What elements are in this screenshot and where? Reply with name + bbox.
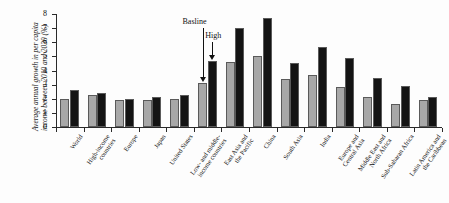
- x-axis-tick: [56, 128, 57, 132]
- plot-area: 012345678 BaslineHigh: [56, 14, 442, 128]
- y-axis-tick: 6: [52, 42, 56, 43]
- bar-group: [170, 14, 189, 127]
- bar-high: [318, 47, 327, 128]
- bar-high: [401, 86, 410, 127]
- y-axis-tick-label: 1: [43, 108, 47, 117]
- x-axis-tick: [277, 128, 278, 132]
- bar-group: [308, 14, 327, 127]
- chart-figure: Average annual growth in per capita inco…: [0, 0, 449, 203]
- x-axis-label: South Asia: [249, 133, 304, 203]
- bar-baseline: [419, 100, 428, 127]
- bar-high: [208, 61, 217, 127]
- bar-baseline: [226, 62, 235, 127]
- x-axis-tick: [442, 128, 443, 132]
- high-annotation-arrowhead: [209, 55, 215, 60]
- y-axis-tick-label: 8: [43, 9, 47, 18]
- bar-group: [88, 14, 107, 127]
- x-axis-label: Latin America and the Caribbean: [387, 133, 448, 203]
- bar-high: [235, 28, 244, 127]
- y-axis-tick: 8: [52, 14, 56, 15]
- bar-group: [363, 14, 382, 127]
- y-axis-tick: 3: [52, 85, 56, 86]
- bar-high: [125, 99, 134, 127]
- bar-group: [419, 14, 438, 127]
- baseline-annotation-label: Basline: [183, 17, 207, 26]
- bar-baseline: [60, 99, 69, 127]
- bar-baseline: [308, 75, 317, 127]
- bar-high: [373, 78, 382, 127]
- bar-high: [345, 58, 354, 127]
- bar-group: [143, 14, 162, 127]
- x-axis-tick: [332, 128, 333, 132]
- bar-baseline: [88, 95, 97, 127]
- y-axis-tick: 4: [52, 71, 56, 72]
- y-axis-tick: 2: [52, 99, 56, 100]
- bar-high: [70, 90, 79, 127]
- x-axis-tick: [166, 128, 167, 132]
- y-axis-line: [56, 14, 57, 128]
- high-annotation-leader-line: [212, 42, 213, 55]
- bar-baseline: [115, 100, 124, 127]
- x-axis-tick: [221, 128, 222, 132]
- bar-baseline: [253, 56, 262, 127]
- x-axis-tick: [139, 128, 140, 132]
- y-axis-tick-label: 4: [43, 66, 47, 75]
- x-axis-tick: [359, 128, 360, 132]
- bar-baseline: [391, 104, 400, 127]
- x-axis-tick: [111, 128, 112, 132]
- bar-high: [428, 97, 437, 127]
- x-axis-tick: [304, 128, 305, 132]
- baseline-annotation-leader-line: [203, 28, 204, 77]
- x-axis-tick: [194, 128, 195, 132]
- x-axis-tick: [387, 128, 388, 132]
- bar-high: [152, 97, 161, 127]
- bar-high: [97, 93, 106, 127]
- bar-group: [391, 14, 410, 127]
- bar-group: [60, 14, 79, 127]
- bar-group: [226, 14, 245, 127]
- y-axis-tick-label: 7: [43, 23, 47, 32]
- x-axis-tick: [414, 128, 415, 132]
- y-axis-tick-label: 0: [43, 122, 47, 131]
- bar-baseline: [281, 79, 290, 127]
- bar-group: [115, 14, 134, 127]
- y-axis-tick-label: 5: [43, 51, 47, 60]
- x-axis-label: Japan: [111, 133, 166, 203]
- y-axis-title-container: Average annual growth in per capita inco…: [2, 0, 42, 135]
- bar-high: [263, 18, 272, 127]
- bar-baseline: [198, 83, 207, 127]
- high-annotation-label: High: [205, 31, 221, 40]
- y-axis-tick-label: 6: [43, 37, 47, 46]
- baseline-annotation-arrowhead: [200, 77, 206, 82]
- bar-group: [281, 14, 300, 127]
- x-axis-tick: [249, 128, 250, 132]
- bar-group: [336, 14, 355, 127]
- bar-high: [290, 63, 299, 127]
- y-axis-tick-label: 3: [43, 80, 47, 89]
- bar-baseline: [336, 87, 345, 127]
- bar-group: [253, 14, 272, 127]
- bar-high: [180, 95, 189, 127]
- y-axis-tick: 7: [52, 28, 56, 29]
- bar-baseline: [170, 99, 179, 127]
- bar-baseline: [143, 100, 152, 127]
- x-axis-tick: [84, 128, 85, 132]
- y-axis-tick-label: 2: [43, 94, 47, 103]
- y-axis-tick: 1: [52, 113, 56, 114]
- bar-baseline: [363, 97, 372, 127]
- y-axis-tick: 5: [52, 56, 56, 57]
